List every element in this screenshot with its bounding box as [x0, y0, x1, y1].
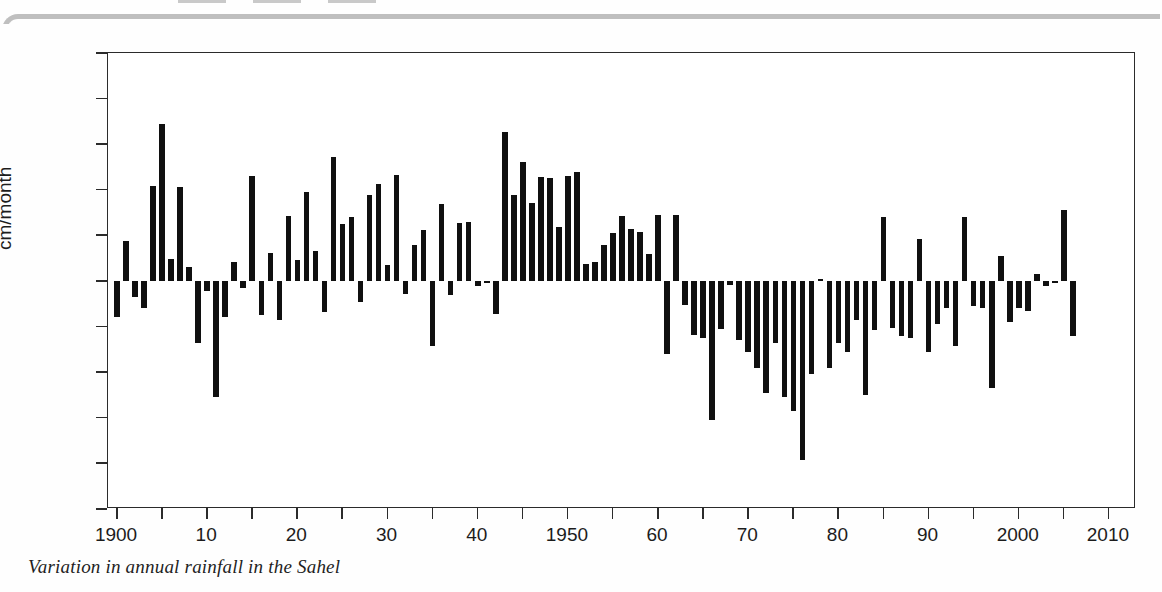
bar — [664, 281, 670, 354]
bar — [114, 281, 120, 317]
bar — [240, 281, 246, 288]
bar — [529, 203, 535, 281]
bar — [421, 230, 427, 281]
bar — [773, 281, 779, 343]
bar — [259, 281, 265, 315]
bar-series — [108, 53, 1134, 507]
x-axis-tick-label: 30 — [376, 524, 397, 546]
bar — [177, 187, 183, 281]
bar — [935, 281, 941, 324]
bar — [845, 281, 851, 352]
bar — [159, 124, 165, 281]
figure-caption: Variation in annual rainfall in the Sahe… — [28, 556, 340, 578]
bar — [457, 223, 463, 281]
bar — [736, 281, 742, 340]
tab-chip-icon — [253, 0, 301, 3]
y-axis-tick — [96, 462, 107, 464]
bar — [863, 281, 869, 395]
bar — [917, 239, 923, 281]
bar — [809, 281, 815, 374]
bar — [998, 256, 1004, 281]
bar — [646, 254, 652, 281]
bar — [691, 281, 697, 335]
bar — [1034, 274, 1040, 281]
bar — [547, 178, 553, 281]
bar — [583, 264, 589, 281]
y-axis-tick — [96, 189, 107, 191]
bar — [827, 281, 833, 368]
bar — [313, 251, 319, 281]
y-axis-title: cm/month — [0, 167, 16, 250]
bar — [1007, 281, 1013, 322]
bar — [574, 172, 580, 281]
bar — [249, 176, 255, 281]
bar — [908, 281, 914, 338]
y-axis-tick — [96, 52, 107, 54]
bar — [800, 281, 806, 460]
bar — [502, 132, 508, 281]
bar — [601, 245, 607, 281]
x-axis-tick — [116, 508, 118, 519]
x-axis-tick-label: 80 — [827, 524, 848, 546]
bar — [511, 195, 517, 281]
x-axis-tick — [387, 508, 389, 519]
bar — [295, 260, 301, 281]
bar — [926, 281, 932, 352]
bar — [628, 229, 634, 281]
bar — [754, 281, 760, 368]
bar — [899, 281, 905, 336]
x-axis-tick-label: 70 — [737, 524, 758, 546]
bar — [277, 281, 283, 320]
y-axis-tick — [96, 98, 107, 100]
bar — [881, 217, 887, 281]
bar — [520, 162, 526, 281]
x-axis-tick-label: 90 — [917, 524, 938, 546]
x-axis-tick — [702, 508, 704, 519]
x-axis-tick — [973, 508, 975, 519]
bar — [872, 281, 878, 330]
bar — [268, 253, 274, 281]
tab-chip-icon — [328, 0, 376, 3]
bar — [231, 262, 237, 281]
bar — [637, 232, 643, 281]
x-axis-tick — [612, 508, 614, 519]
x-axis-tick-label: 1950 — [546, 524, 588, 546]
y-axis-tick — [96, 280, 107, 282]
x-axis-tick — [1108, 508, 1110, 519]
bar — [123, 241, 129, 281]
x-axis-tick-label: 2010 — [1087, 524, 1129, 546]
bar — [403, 281, 409, 294]
bar — [709, 281, 715, 420]
bar — [358, 281, 364, 302]
bar — [304, 192, 310, 281]
bar — [466, 222, 472, 281]
bar — [150, 186, 156, 281]
bar — [619, 216, 625, 281]
bar — [186, 267, 192, 281]
x-axis-tick — [747, 508, 749, 519]
bar — [1052, 281, 1058, 283]
x-axis-tick — [792, 508, 794, 519]
bar — [322, 281, 328, 312]
bar — [204, 281, 210, 291]
bar — [556, 227, 562, 281]
bar — [655, 215, 661, 281]
bar — [484, 281, 490, 283]
bar — [394, 175, 400, 281]
bar — [818, 279, 824, 281]
x-axis-tick-label: 60 — [646, 524, 667, 546]
x-axis-tick — [883, 508, 885, 519]
x-axis-tick — [296, 508, 298, 519]
x-axis-tick — [1063, 508, 1065, 519]
y-axis-tick — [96, 417, 107, 419]
bar — [944, 281, 950, 308]
bar — [412, 245, 418, 281]
bar — [718, 281, 724, 329]
bar — [791, 281, 797, 411]
bar — [1016, 281, 1022, 308]
x-axis-tick — [341, 508, 343, 519]
tab-chip-icon — [178, 0, 226, 3]
bar — [448, 281, 454, 295]
rainfall-figure: cm/month 543210−1−2−3−4−5 19001020304019… — [0, 38, 1162, 592]
x-axis-tick — [837, 508, 839, 519]
